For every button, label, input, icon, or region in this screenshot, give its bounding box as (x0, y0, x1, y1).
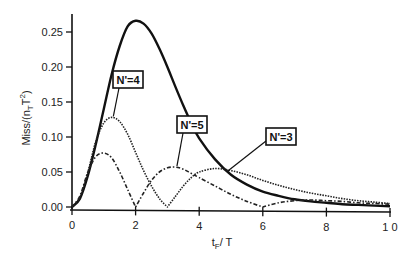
axes (70, 14, 391, 212)
series-line-n3 (72, 21, 390, 207)
annotation-leader (113, 88, 119, 116)
x-tick-label: 8 (323, 221, 329, 233)
y-axis-label-main: Miss/(n (20, 110, 32, 145)
x-tick-label: 6 (260, 220, 266, 232)
x-axis-label: tF/ T (212, 236, 233, 251)
annotation-label: N'=5 (180, 119, 203, 131)
annotations: N'=4N'=5N'=3 (113, 71, 296, 171)
x-tick-label: 4 (196, 220, 202, 232)
y-tick-label: 0.10 (42, 131, 63, 143)
y-tick-label: 0.05 (42, 166, 63, 178)
chart: 0.000.050.100.150.200.25024681 0 N'=4N'=… (0, 0, 415, 264)
y-axis-label: Miss/(nTT2) (18, 90, 35, 145)
x-tick-label: 2 (133, 219, 139, 231)
x-tick-label: 0 (69, 219, 75, 231)
y-tick-label: 0.00 (42, 201, 63, 213)
x-axis-line (70, 210, 391, 212)
y-tick-label: 0.20 (42, 61, 63, 73)
x-axis-label-rest: / T (220, 236, 233, 248)
y-tick-label: 0.15 (42, 96, 63, 108)
annotation-leader (228, 141, 266, 171)
annotation-label: N'=4 (116, 74, 140, 86)
y-axis-label-end: ) (20, 90, 32, 94)
x-tick-label: 1 0 (382, 221, 397, 233)
annotation-label: N'=3 (269, 131, 292, 143)
y-tick-label: 0.25 (42, 26, 63, 38)
annotation-leader (177, 133, 183, 166)
series-group (72, 21, 390, 207)
